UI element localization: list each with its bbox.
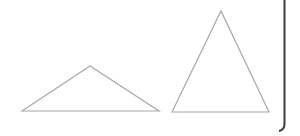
obtuse-triangle	[22, 66, 159, 111]
acute-triangle	[172, 11, 269, 112]
diagram-canvas	[0, 0, 300, 136]
frame-border-right	[279, 0, 285, 131]
